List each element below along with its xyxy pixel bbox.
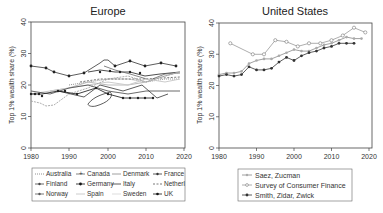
us-ytick-40: 40 xyxy=(208,19,215,27)
us-panel: United States 0 10 20 30 40 Top 1% wealt… xyxy=(196,5,377,201)
europe-legend: Australia + Canada Denmark France Finlan… xyxy=(32,168,186,201)
us-plot-frame xyxy=(219,23,372,148)
europe-y-axis xyxy=(28,22,31,148)
europe-xtick-2020: 2020 xyxy=(176,153,192,160)
legend-italy: Italy xyxy=(123,180,136,188)
europe-ytick-0: 0 xyxy=(20,146,27,150)
legend-finland: Finland xyxy=(46,180,68,187)
europe-xtick-1980: 1980 xyxy=(23,153,39,160)
legend-australia: Australia xyxy=(46,170,72,177)
legend-sweden: Sweden xyxy=(123,190,147,197)
us-xtick-1990: 1990 xyxy=(249,153,265,160)
us-x-axis xyxy=(219,148,369,151)
legend-canada: Canada xyxy=(87,170,110,177)
us-ytick-10: 10 xyxy=(208,113,215,121)
svg-text:+: + xyxy=(79,170,83,177)
us-ytick-30: 30 xyxy=(208,50,215,58)
legend-saez-zucman: Saez, Zucman xyxy=(255,172,300,179)
legend-france: France xyxy=(164,170,185,177)
europe-ytick-40: 40 xyxy=(20,18,27,26)
europe-ytick-10: 10 xyxy=(20,113,27,121)
legend-netherlands: Netherl xyxy=(164,180,186,187)
europe-xtick-2010: 2010 xyxy=(138,153,154,160)
us-y-label: Top 1% wealth share (%) xyxy=(196,46,204,124)
figure: Europe 0 10 20 30 40 Top 1% wealth share… xyxy=(0,0,383,213)
europe-panel: Europe 0 10 20 30 40 Top 1% wealth share… xyxy=(8,5,192,201)
europe-series xyxy=(31,60,180,106)
us-markers xyxy=(218,26,367,77)
europe-ytick-30: 30 xyxy=(20,50,27,58)
us-title: United States xyxy=(262,5,329,17)
legend-spain: Spain xyxy=(87,190,104,198)
series-szz xyxy=(219,43,354,76)
europe-xtick-1990: 1990 xyxy=(61,153,77,160)
legend-denmark: Denmark xyxy=(123,170,150,177)
legend-uk: UK xyxy=(164,190,174,197)
legend-germany: Germany xyxy=(87,180,114,188)
us-xtick-2010: 2010 xyxy=(324,153,340,160)
us-xtick-1980: 1980 xyxy=(211,153,227,160)
legend-szz: Smith, Zidar, Zwick xyxy=(255,192,315,199)
us-xtick-2020: 2020 xyxy=(361,153,377,160)
legend-scf: Survey of Consumer Finance xyxy=(255,182,346,190)
europe-ytick-20: 20 xyxy=(20,81,27,89)
series-france-top xyxy=(31,60,176,76)
europe-y-label: Top 1% wealth share (%) xyxy=(8,46,16,124)
us-legend: Saez, Zucman Survey of Consumer Finance … xyxy=(238,169,352,201)
europe-x-axis xyxy=(31,148,184,151)
us-ytick-20: 20 xyxy=(208,82,215,90)
europe-title: Europe xyxy=(90,5,125,17)
legend-norway: Norway xyxy=(46,190,69,198)
europe-xtick-2000: 2000 xyxy=(100,153,116,160)
us-xtick-2000: 2000 xyxy=(286,153,302,160)
us-y-axis xyxy=(216,23,219,148)
us-ytick-0: 0 xyxy=(208,146,215,150)
